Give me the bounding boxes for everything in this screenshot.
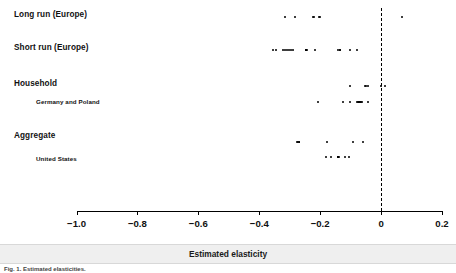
data-point	[306, 49, 308, 51]
data-point	[362, 141, 364, 143]
x-axis-title: Estimated elasticity	[0, 249, 456, 259]
data-point	[284, 16, 286, 18]
data-point	[401, 16, 403, 18]
x-axis-tick	[320, 211, 321, 215]
zero-reference-line	[381, 8, 382, 211]
data-point	[299, 141, 301, 143]
row-label-united-states: United States	[36, 155, 77, 162]
data-point	[319, 16, 321, 18]
x-axis-tick-label: 0	[378, 218, 383, 229]
data-point	[344, 156, 346, 158]
data-point	[367, 101, 369, 103]
data-point	[339, 49, 341, 51]
x-axis-tick-label: −0.2	[311, 218, 330, 229]
data-point	[349, 101, 351, 103]
data-point	[367, 85, 369, 87]
x-axis-tick-label: −0.4	[250, 218, 269, 229]
plot-area: Long run (Europe)Short run (Europe)House…	[0, 0, 456, 200]
data-point	[330, 156, 332, 158]
row-label-short-run-europe: Short run (Europe)	[14, 43, 89, 52]
data-point	[338, 156, 340, 158]
data-point	[314, 49, 316, 51]
x-axis-tick	[77, 211, 78, 215]
data-point	[342, 101, 344, 103]
data-point	[380, 85, 382, 87]
data-point	[294, 16, 296, 18]
elasticity-scatter-figure: Long run (Europe)Short run (Europe)House…	[0, 0, 456, 273]
x-axis-tick	[198, 211, 199, 215]
data-point	[361, 101, 363, 103]
data-point	[348, 156, 350, 158]
x-axis-tick	[442, 211, 443, 215]
row-label-aggregate: Aggregate	[14, 131, 55, 140]
data-point	[292, 49, 294, 51]
data-point	[313, 16, 315, 18]
x-axis-tick-label: 0.2	[435, 218, 448, 229]
data-point	[317, 101, 319, 103]
row-label-germany-and-poland: Germany and Poland	[36, 98, 100, 105]
row-label-household: Household	[14, 79, 57, 88]
x-axis-tick	[381, 211, 382, 215]
data-point	[275, 49, 277, 51]
data-point	[325, 156, 327, 158]
data-point	[272, 49, 274, 51]
row-label-long-run-europe: Long run (Europe)	[14, 10, 87, 19]
data-point	[326, 141, 328, 143]
data-point	[349, 49, 351, 51]
figure-caption: Fig. 1. Estimated elasticities.	[4, 266, 86, 272]
x-axis-tick	[259, 211, 260, 215]
x-axis-tick-label: −0.8	[128, 218, 147, 229]
data-point	[352, 141, 354, 143]
x-axis-tick	[137, 211, 138, 215]
data-point	[356, 49, 358, 51]
x-axis-tick-label: −1.0	[67, 218, 86, 229]
data-point	[349, 85, 351, 87]
data-point	[384, 85, 386, 87]
x-axis-tick-label: −0.6	[189, 218, 208, 229]
